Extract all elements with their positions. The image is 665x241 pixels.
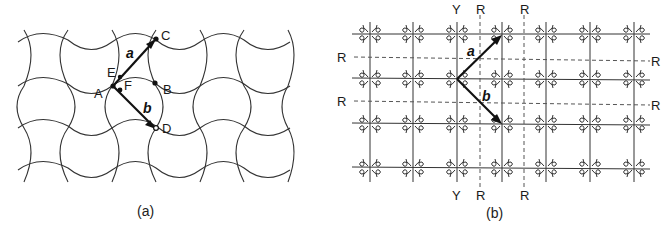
motif-glyph <box>415 170 424 177</box>
motif-glyph <box>580 70 589 77</box>
motif-glyph <box>415 70 424 77</box>
point-a-dot <box>110 83 115 88</box>
motif-glyph <box>372 126 381 133</box>
motif-glyph <box>536 170 545 177</box>
motif-glyph <box>447 70 456 77</box>
figure: C B D A E F a b (a) <box>0 0 665 241</box>
motif-glyph <box>360 36 369 43</box>
motif-glyph <box>372 170 381 177</box>
motif-glyph <box>636 70 645 77</box>
motif-glyph <box>403 126 412 133</box>
label-f: F <box>124 78 132 93</box>
motif-glyph <box>548 81 557 88</box>
motif-glyph <box>372 70 381 77</box>
motif-glyph <box>360 170 369 177</box>
motif-glyph <box>459 25 468 32</box>
motif-glyph <box>592 115 601 122</box>
tiling-vertical-curves <box>17 30 294 182</box>
motif-glyph <box>372 36 381 43</box>
vector-b-label-b: b <box>482 88 491 104</box>
motif-glyph <box>415 81 424 88</box>
panel-b <box>352 15 650 188</box>
motif-glyph <box>492 159 501 166</box>
motif-glyph <box>592 126 601 133</box>
caption-b: (b) <box>486 205 503 221</box>
motif-glyph <box>459 126 468 133</box>
axis-label-left-r1: R <box>337 50 346 65</box>
motif-glyph <box>580 115 589 122</box>
motif-glyph <box>536 126 545 133</box>
motif-glyph <box>548 126 557 133</box>
motif-glyph <box>580 81 589 88</box>
label-c: C <box>161 28 170 43</box>
motif-glyph <box>592 159 601 166</box>
motif-glyph <box>360 25 369 32</box>
motif-glyph <box>403 70 412 77</box>
motif-glyph <box>548 25 557 32</box>
motif-glyph <box>624 36 633 43</box>
motif-glyph <box>372 159 381 166</box>
axis-label-right-r1: R <box>651 54 660 69</box>
axis-label-bottom-r1: R <box>476 188 485 203</box>
motif-glyph <box>492 70 501 77</box>
motif-glyph <box>636 25 645 32</box>
axis-label-left-r2: R <box>337 94 346 109</box>
motif-glyph <box>447 126 456 133</box>
motif-glyph <box>504 81 513 88</box>
axis-label-top-y: Y <box>452 2 461 17</box>
motif-glyph <box>592 25 601 32</box>
motif-glyph <box>504 126 513 133</box>
motif-glyph <box>536 25 545 32</box>
motif-glyph <box>360 126 369 133</box>
motif-glyph <box>415 25 424 32</box>
point-f-dot <box>118 88 123 93</box>
motif-glyph <box>580 25 589 32</box>
panel-a <box>17 30 294 182</box>
motif-glyph <box>492 170 501 177</box>
motif-glyph <box>360 159 369 166</box>
motif-glyph <box>447 81 456 88</box>
panel-a-vectors <box>110 36 158 130</box>
motif-glyph <box>372 81 381 88</box>
motif-glyph <box>459 36 468 43</box>
label-a: A <box>94 86 103 101</box>
motif-glyph <box>447 25 456 32</box>
motif-glyph <box>492 25 501 32</box>
label-b: B <box>163 82 172 97</box>
axis-label-bottom-r2: R <box>520 188 529 203</box>
motif-glyph <box>592 70 601 77</box>
motif-glyph <box>536 81 545 88</box>
motif-glyph <box>580 159 589 166</box>
motif-glyph <box>624 170 633 177</box>
motif-glyph <box>415 126 424 133</box>
motif-glyph <box>403 36 412 43</box>
motif-glyph <box>636 115 645 122</box>
motif-glyph <box>636 126 645 133</box>
label-d: D <box>162 121 171 136</box>
axis-label-bottom-y: Y <box>452 188 461 203</box>
motif-glyph <box>536 36 545 43</box>
motif-glyph <box>624 70 633 77</box>
motif-glyph <box>592 36 601 43</box>
motif-glyph <box>548 70 557 77</box>
motif-glyph <box>624 159 633 166</box>
motif-glyph <box>592 81 601 88</box>
motif-glyph <box>403 170 412 177</box>
axis-label-right-r2: R <box>651 98 660 113</box>
motif-glyph <box>636 36 645 43</box>
motif-glyph <box>403 115 412 122</box>
motif-glyph <box>536 70 545 77</box>
motif-glyph <box>624 115 633 122</box>
axis-label-top-r1: R <box>476 2 485 17</box>
caption-a: (a) <box>137 203 154 219</box>
motif-glyph <box>447 115 456 122</box>
motif-glyph <box>447 36 456 43</box>
motif-glyph <box>636 81 645 88</box>
motif-glyph <box>415 36 424 43</box>
motif-glyph <box>415 159 424 166</box>
label-e: E <box>107 65 116 80</box>
vector-a-label: a <box>126 45 134 61</box>
motif-glyph <box>624 81 633 88</box>
motif-glyph <box>372 25 381 32</box>
motif-glyph <box>624 126 633 133</box>
